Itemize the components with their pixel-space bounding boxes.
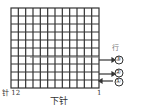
stitch-right-label: 1 [97, 90, 101, 97]
row-arrows [99, 58, 115, 83]
row-marker-1: ① [115, 78, 121, 85]
row-marker-2: ② [115, 69, 121, 76]
row-marker-3: ③ [115, 56, 121, 63]
row-label: 行 [112, 45, 119, 52]
stitch-left-label: 针 12 [2, 90, 20, 97]
knitting-chart [0, 0, 143, 111]
chart-title: 下针 [50, 97, 68, 106]
chart-grid [11, 8, 99, 88]
